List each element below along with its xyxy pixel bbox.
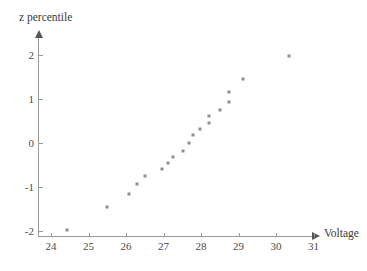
data-point xyxy=(198,127,201,130)
y-axis-tick xyxy=(39,99,43,100)
data-point xyxy=(171,156,174,159)
y-axis-tick-label: -1 xyxy=(25,181,34,193)
x-axis-tick-label: 24 xyxy=(46,240,57,252)
x-axis-tick-label: 27 xyxy=(158,240,169,252)
y-axis-title: z percentile xyxy=(19,11,72,23)
data-point xyxy=(144,175,147,178)
data-point xyxy=(188,142,191,145)
y-axis-arrow-icon xyxy=(35,30,43,38)
x-axis-tick xyxy=(126,233,127,237)
x-axis-tick xyxy=(314,233,315,237)
x-axis-tick xyxy=(51,233,52,237)
data-point xyxy=(161,167,164,170)
data-point xyxy=(288,54,291,57)
data-point xyxy=(105,205,108,208)
data-point xyxy=(228,90,231,93)
data-point xyxy=(207,115,210,118)
y-axis-line xyxy=(38,37,39,237)
data-point xyxy=(135,182,138,185)
data-point xyxy=(219,109,222,112)
y-axis-tick xyxy=(39,187,43,188)
x-axis-tick-label: 25 xyxy=(83,240,94,252)
data-point xyxy=(182,149,185,152)
x-axis-line xyxy=(38,236,314,237)
x-axis-tick xyxy=(276,233,277,237)
y-axis-tick-label: 2 xyxy=(29,49,35,61)
scatter-plot-figure: Voltage z percentile 2425262728293031 21… xyxy=(0,0,367,271)
y-axis-tick xyxy=(39,143,43,144)
y-axis-tick-label: 1 xyxy=(29,93,35,105)
x-axis-tick-label: 30 xyxy=(271,240,282,252)
x-axis-title: Voltage xyxy=(324,227,359,239)
y-axis-tick xyxy=(39,231,43,232)
x-axis-tick-label: 28 xyxy=(196,240,207,252)
x-axis-tick xyxy=(239,233,240,237)
data-point xyxy=(192,134,195,137)
data-point xyxy=(66,229,69,232)
y-axis-tick-label: -2 xyxy=(25,225,34,237)
x-axis-tick xyxy=(89,233,90,237)
x-axis-tick-label: 26 xyxy=(121,240,132,252)
x-axis-tick-label: 31 xyxy=(308,240,319,252)
data-point xyxy=(167,161,170,164)
data-point xyxy=(242,78,245,81)
x-axis-tick-label: 29 xyxy=(233,240,244,252)
y-axis-tick xyxy=(39,55,43,56)
x-axis-tick xyxy=(201,233,202,237)
data-point xyxy=(228,101,231,104)
data-point xyxy=(207,122,210,125)
y-axis-tick-label: 0 xyxy=(29,137,35,149)
x-axis-tick xyxy=(164,233,165,237)
data-point xyxy=(128,193,131,196)
